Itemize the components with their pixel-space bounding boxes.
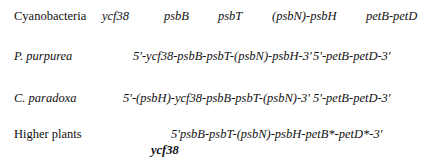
gene-psbT: psbT	[218, 10, 242, 23]
gene-cluster-1: 5'-(psbH)-ycf38-psbB-psbT-(psbN)-3'	[123, 92, 310, 105]
gene-psbN-psbH: (psbN)-psbH	[272, 10, 337, 23]
gene-cluster-2: 5'-petB-petD-3'	[313, 50, 391, 63]
gene-insertion-ycf38: ycf38	[151, 144, 179, 157]
organism-label-higher-plants: Higher plants	[14, 128, 82, 141]
organism-label-cyanobacteria: Cyanobacteria	[14, 10, 86, 23]
gene-cluster-1: 5'-ycf38-psbB-psbT-(psbN)-psbH-3'	[133, 50, 312, 63]
organism-label-c-paradoxa: C. paradoxa	[14, 92, 77, 105]
organism-label-p-purpurea: P. purpurea	[14, 50, 72, 63]
gene-psbB: psbB	[164, 10, 189, 23]
gene-petB-petD: petB-petD	[366, 10, 417, 23]
gene-cluster-2: 5'-petB-petD-3'	[313, 92, 391, 105]
gene-cluster-1: 5'psbB-psbT-(psbN)-psbH-petB*-petD*-3'	[171, 128, 382, 141]
gene-ycf38: ycf38	[102, 10, 129, 23]
